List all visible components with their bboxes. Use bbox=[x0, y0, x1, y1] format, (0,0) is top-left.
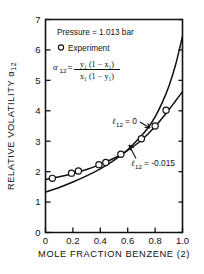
x-axis-tick-label: 0.8 bbox=[148, 235, 161, 246]
y-axis-tick-label: 4 bbox=[35, 105, 40, 116]
x-axis-tick-label: 1.0 bbox=[176, 235, 189, 246]
y-axis-title: RELATIVE VOLATILITY α12 bbox=[6, 62, 17, 190]
data-point-experiment bbox=[68, 170, 74, 176]
y-axis-tick-label: 7 bbox=[35, 14, 40, 25]
x-axis-tick-label: 0.2 bbox=[66, 235, 79, 246]
data-point-experiment bbox=[152, 123, 158, 129]
y-axis-tick-label: 5 bbox=[35, 75, 40, 86]
y-axis-tick-label: 6 bbox=[35, 44, 40, 55]
data-point-experiment bbox=[138, 136, 144, 142]
formula-numerator: y₁ (1 − x₁) bbox=[80, 60, 114, 69]
x-axis-title: MOLE FRACTION BENZENE (2) bbox=[38, 249, 190, 259]
y-axis-tick-label: 2 bbox=[35, 166, 40, 177]
curve-label-l12-negative-value: = -0.015 bbox=[144, 158, 175, 168]
curve-label-l12-negative-subscript: 12 bbox=[135, 163, 142, 170]
data-point-experiment bbox=[49, 175, 55, 181]
x-axis-tick-label: 0.6 bbox=[121, 235, 134, 246]
formula-denominator: x₁ (1 − y₁) bbox=[80, 72, 114, 81]
chart-figure: 0123456700.20.40.60.81.0MOLE FRACTION BE… bbox=[0, 0, 204, 274]
data-point-experiment bbox=[96, 162, 102, 168]
svg-text:RELATIVE VOLATILITY α12: RELATIVE VOLATILITY α12 bbox=[6, 62, 17, 190]
y-axis-tick-label: 1 bbox=[35, 196, 40, 207]
x-axis-tick-label: 0 bbox=[43, 235, 48, 246]
formula-alpha: α bbox=[53, 62, 58, 72]
data-point-experiment bbox=[163, 107, 169, 113]
plot-frame bbox=[46, 20, 183, 233]
formula-equals: = bbox=[68, 62, 73, 72]
formula-alpha-subscript: 12 bbox=[60, 67, 67, 74]
data-point-experiment bbox=[103, 159, 109, 165]
legend-marker-open-circle bbox=[58, 45, 63, 50]
y-axis-tick-label: 3 bbox=[35, 136, 40, 147]
data-point-experiment bbox=[75, 168, 81, 174]
data-point-experiment bbox=[118, 151, 124, 157]
relative-volatility-chart: 0123456700.20.40.60.81.0MOLE FRACTION BE… bbox=[0, 0, 204, 274]
curve-label-l12-zero-subscript: 12 bbox=[116, 121, 123, 128]
y-axis-tick-label: 0 bbox=[35, 227, 40, 238]
curve-label-l12-zero-value: = 0 bbox=[125, 116, 137, 126]
legend-label-experiment: Experiment bbox=[68, 44, 110, 53]
x-axis-tick-label: 0.4 bbox=[94, 235, 107, 246]
annotation-pressure: Pressure = 1.013 bar bbox=[57, 28, 134, 37]
